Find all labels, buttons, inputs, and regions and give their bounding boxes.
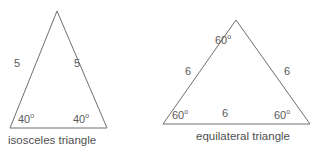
equilateral-bottom-side-label: 6 <box>222 108 228 119</box>
degree-symbol-icon: o <box>286 108 290 115</box>
equilateral-caption: equilateral triangle <box>196 130 290 143</box>
isosceles-triangle-shape <box>10 11 107 128</box>
equilateral-bottom-side-value: 6 <box>222 107 228 119</box>
equilateral-right-side-value: 6 <box>284 65 290 77</box>
equilateral-left-side-value: 6 <box>185 65 191 77</box>
equilateral-right-side-label: 6 <box>284 66 290 77</box>
equilateral-bottom-left-angle-label: 60o <box>172 108 188 121</box>
isosceles-left-side-value: 5 <box>14 57 20 69</box>
equilateral-apex-angle-value: 60 <box>215 34 227 46</box>
isosceles-bottom-left-angle-value: 40 <box>18 113 30 125</box>
equilateral-left-side-label: 6 <box>185 66 191 77</box>
degree-symbol-icon: o <box>227 33 231 40</box>
isosceles-bottom-right-angle-label: 40o <box>73 112 89 125</box>
isosceles-right-side-label: 5 <box>74 58 80 69</box>
isosceles-bottom-left-angle-label: 40o <box>18 112 34 125</box>
isosceles-bottom-right-angle-value: 40 <box>73 113 85 125</box>
equilateral-bottom-left-angle-value: 60 <box>172 109 184 121</box>
equilateral-bottom-right-angle-label: 60o <box>274 108 290 121</box>
degree-symbol-icon: o <box>85 112 89 119</box>
equilateral-bottom-right-angle-value: 60 <box>274 109 286 121</box>
equilateral-apex-angle-label: 60o <box>215 33 231 46</box>
isosceles-left-side-label: 5 <box>14 58 20 69</box>
isosceles-caption: isosceles triangle <box>8 134 96 147</box>
geometry-figure-canvas: 5 5 40o 40o isosceles triangle 60o 6 6 6… <box>0 0 316 154</box>
isosceles-right-side-value: 5 <box>74 57 80 69</box>
degree-symbol-icon: o <box>184 108 188 115</box>
degree-symbol-icon: o <box>30 112 34 119</box>
